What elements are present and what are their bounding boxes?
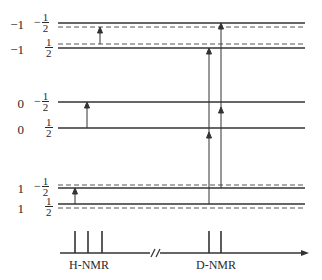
solid-energy-levels (58, 23, 305, 204)
axis-arrow-icon (301, 250, 309, 256)
d-nmr-peaks (209, 231, 221, 253)
ms-label: − 12 (34, 12, 49, 33)
h-nmr-label: H-NMR (69, 258, 109, 273)
d-nmr-label: D-NMR (196, 258, 236, 273)
ms-label: − 12 (34, 91, 49, 112)
ms-label: − 12 (34, 176, 49, 197)
spectrum-axis (60, 249, 302, 257)
ms-label: 12 (44, 37, 53, 58)
h-nmr-transition-arrows (73, 27, 103, 204)
ms-label: 12 (44, 196, 53, 217)
mi-label: 0 (10, 96, 24, 112)
mi-label: −1 (10, 17, 24, 33)
mi-label: −1 (10, 42, 24, 58)
h-nmr-peaks (75, 231, 102, 253)
mi-label: 1 (10, 201, 24, 217)
mi-label: 1 (10, 181, 24, 197)
ms-label: 12 (44, 117, 53, 138)
dashed-energy-levels (58, 27, 305, 208)
mi-label: 0 (10, 122, 24, 138)
d-nmr-transition-arrows (207, 23, 224, 204)
